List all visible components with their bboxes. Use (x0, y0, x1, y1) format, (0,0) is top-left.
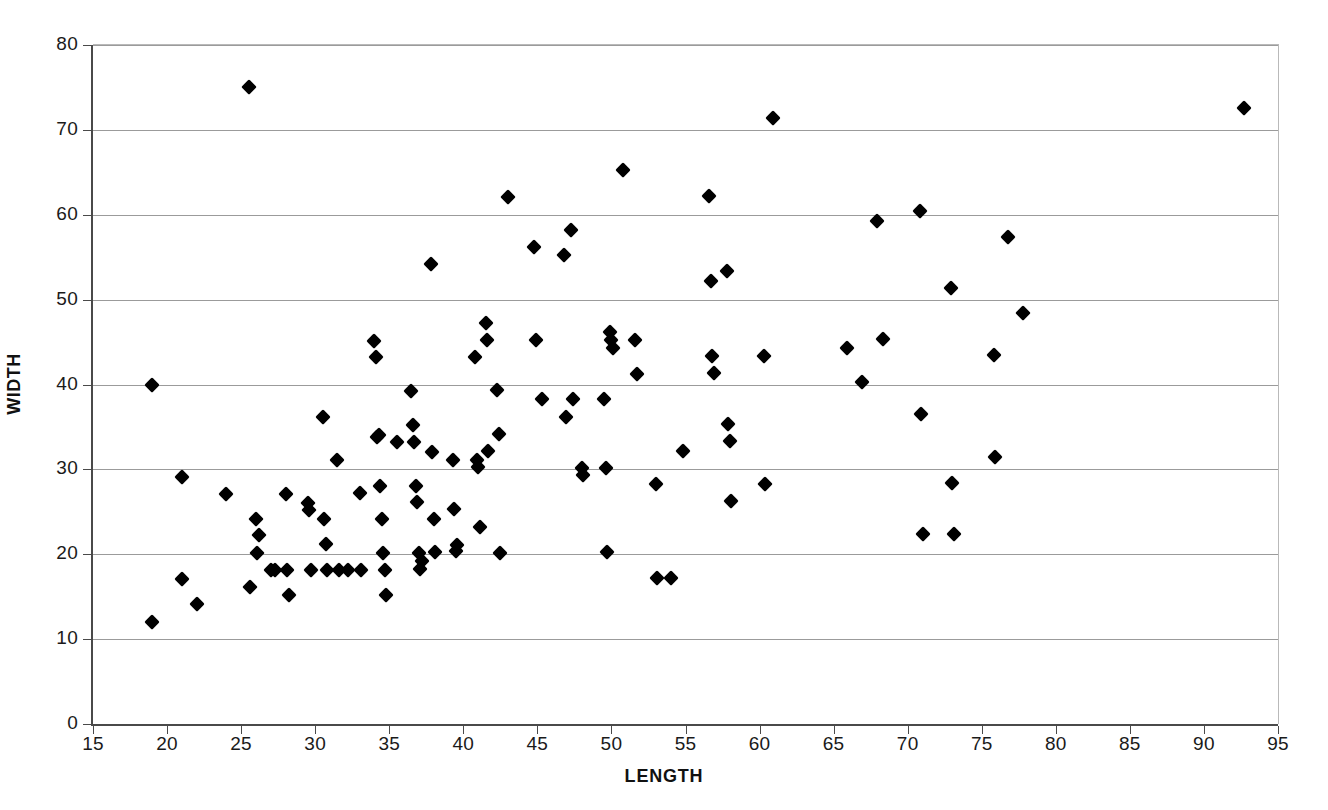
data-points (93, 45, 1278, 724)
data-point (627, 333, 643, 349)
data-point (875, 331, 891, 347)
data-point (987, 450, 1003, 466)
data-point (558, 409, 574, 425)
data-point (722, 434, 738, 450)
data-point (279, 562, 295, 578)
data-point (379, 587, 395, 603)
data-point (472, 519, 488, 535)
x-tick-label: 45 (527, 733, 549, 755)
data-point (556, 247, 572, 263)
y-tick-mark (83, 45, 91, 46)
data-point (944, 475, 960, 491)
data-point (854, 374, 870, 390)
x-tick-mark (537, 726, 538, 734)
data-point (250, 546, 266, 562)
y-tick-mark (83, 130, 91, 131)
data-point (756, 348, 772, 364)
data-point (629, 367, 645, 383)
x-axis-line (91, 724, 1278, 726)
x-tick-mark (1130, 726, 1131, 734)
scatter-chart: WIDTH LENGTH 01020304050607080 152025303… (0, 0, 1328, 810)
data-point (565, 391, 581, 407)
x-tick-mark (389, 726, 390, 734)
x-tick-label: 15 (82, 733, 104, 755)
y-tick-mark (83, 215, 91, 216)
data-point (598, 460, 614, 476)
data-point (479, 333, 495, 349)
data-point (596, 391, 612, 407)
data-point (410, 495, 426, 511)
data-point (675, 443, 691, 459)
data-point (616, 162, 632, 178)
data-point (528, 333, 544, 349)
data-point (423, 256, 439, 272)
x-tick-mark (834, 726, 835, 734)
x-tick-label: 50 (601, 733, 623, 755)
y-tick-label: 60 (56, 203, 78, 225)
data-point (377, 562, 393, 578)
data-point (389, 434, 405, 450)
y-tick-label: 80 (56, 33, 78, 55)
x-tick-label: 20 (156, 733, 178, 755)
data-point (330, 452, 346, 468)
y-tick-mark (83, 469, 91, 470)
data-point (248, 511, 264, 527)
y-tick-mark (83, 300, 91, 301)
data-point (564, 222, 580, 238)
y-tick-label: 30 (56, 457, 78, 479)
data-point (481, 443, 497, 459)
y-tick-label: 20 (56, 542, 78, 564)
data-point (281, 587, 297, 603)
data-point (721, 416, 737, 432)
x-tick-mark (1204, 726, 1205, 734)
data-point (426, 512, 442, 528)
data-point (986, 347, 1002, 363)
data-point (174, 571, 190, 587)
data-point (368, 350, 384, 366)
x-tick-label: 80 (1045, 733, 1067, 755)
x-axis-tick-labels: 1520253035404550556065707580859095 (0, 733, 1328, 763)
x-tick-mark (1278, 726, 1279, 734)
data-point (946, 526, 962, 542)
data-point (706, 366, 722, 382)
data-point (912, 204, 928, 220)
data-point (251, 527, 267, 543)
x-tick-label: 35 (378, 733, 400, 755)
data-point (663, 570, 679, 586)
x-tick-mark (908, 726, 909, 734)
data-point (467, 350, 483, 366)
data-point (1236, 100, 1252, 116)
data-point (490, 383, 506, 399)
data-point (408, 478, 424, 494)
x-tick-label: 40 (452, 733, 474, 755)
y-tick-mark (83, 724, 91, 725)
x-tick-label: 95 (1267, 733, 1289, 755)
data-point (869, 213, 885, 229)
x-tick-label: 25 (230, 733, 252, 755)
data-point (278, 486, 294, 502)
x-tick-label: 85 (1119, 733, 1141, 755)
data-point (219, 486, 235, 502)
plot-area (93, 44, 1279, 724)
data-point (174, 469, 190, 485)
x-tick-mark (611, 726, 612, 734)
data-point (189, 597, 205, 613)
data-point (242, 580, 258, 596)
x-tick-mark (760, 726, 761, 734)
data-point (353, 562, 369, 578)
x-tick-label: 30 (304, 733, 326, 755)
data-point (427, 544, 443, 560)
data-point (316, 512, 332, 528)
data-point (241, 80, 257, 96)
data-point (447, 501, 463, 517)
x-tick-label: 55 (675, 733, 697, 755)
data-point (491, 426, 507, 442)
x-tick-mark (167, 726, 168, 734)
x-tick-mark (315, 726, 316, 734)
data-point (407, 434, 423, 450)
data-point (704, 349, 720, 365)
data-point (1015, 305, 1031, 321)
y-tick-label: 50 (56, 288, 78, 310)
data-point (703, 273, 719, 289)
data-point (376, 545, 392, 561)
